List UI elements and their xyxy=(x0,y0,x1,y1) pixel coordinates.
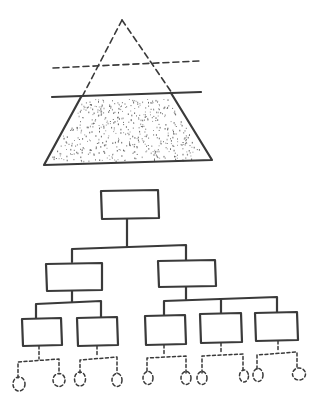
pyramid-base-fill xyxy=(44,93,212,165)
diagram-canvas xyxy=(0,0,322,411)
leaf-oval-5 xyxy=(143,372,153,385)
level3-box-4 xyxy=(200,313,242,343)
org-chart xyxy=(13,190,306,391)
pyramid xyxy=(44,20,212,165)
leaf-oval-3 xyxy=(75,372,86,386)
pyramid-left-edge-dashed xyxy=(82,20,122,97)
level4-connectors xyxy=(18,341,297,378)
leaf-oval-8 xyxy=(240,370,249,382)
level2-bus xyxy=(72,245,186,262)
leaf-oval-4 xyxy=(112,374,122,387)
leaf-oval-10 xyxy=(293,368,306,380)
level2-box-left xyxy=(46,263,102,291)
level2-box-right xyxy=(158,260,216,287)
root-box xyxy=(101,190,159,219)
leaf-oval-1 xyxy=(13,377,25,391)
pyramid-right-edge-dashed xyxy=(122,20,172,93)
level3-box-5 xyxy=(255,312,298,341)
level3-box-2 xyxy=(77,317,118,346)
level3-box-3 xyxy=(145,315,186,345)
leaf-oval-9 xyxy=(253,369,263,382)
level4-leaves xyxy=(13,368,306,391)
pyramid-and-org-chart-sketch xyxy=(0,0,322,411)
leaf-oval-2 xyxy=(53,374,65,387)
dashed-divider-line xyxy=(53,61,199,68)
level3-box-1 xyxy=(22,318,62,346)
left-branch-bus xyxy=(36,301,101,318)
